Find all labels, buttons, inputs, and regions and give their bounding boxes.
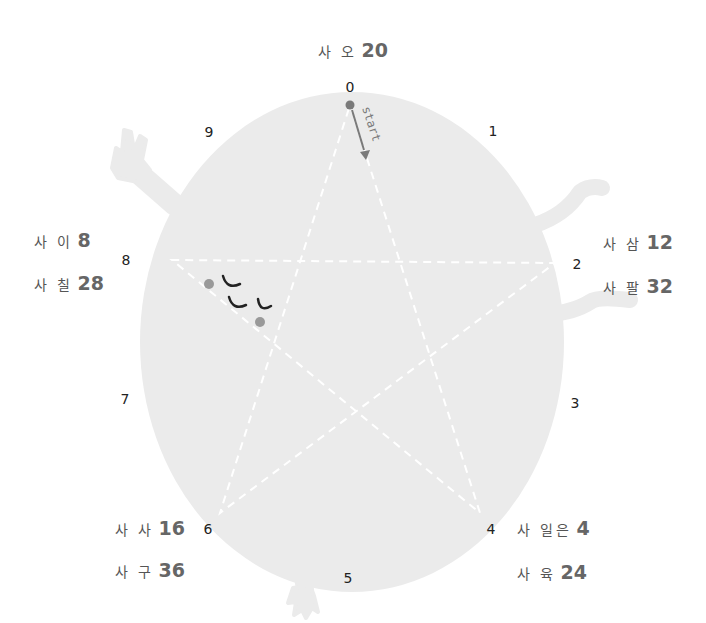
vertex-number-0: 0	[346, 79, 355, 95]
vertex-number-1: 1	[489, 123, 498, 139]
label-value: 36	[158, 559, 184, 581]
vertex-number-8: 8	[122, 252, 131, 268]
label-korean: 사 사	[115, 522, 154, 538]
label-value: 20	[361, 39, 387, 61]
label-value: 28	[77, 272, 103, 294]
start-dot	[346, 101, 355, 110]
cheek-dot-right	[255, 317, 265, 327]
label-top: 사 오20	[318, 39, 388, 61]
label-value: 4	[576, 517, 589, 539]
label-value: 8	[77, 229, 90, 251]
label-bottom-right-2: 사 육24	[517, 561, 587, 583]
label-value: 24	[560, 561, 586, 583]
vertex-number-6: 6	[204, 521, 213, 537]
label-value: 32	[646, 275, 672, 297]
vertex-number-9: 9	[205, 124, 214, 140]
label-value: 12	[646, 231, 672, 253]
vertex-number-7: 7	[121, 391, 130, 407]
label-korean: 사 일은	[517, 522, 572, 538]
label-korean: 사 오	[318, 44, 357, 60]
label-bottom-right-1: 사 일은4	[517, 517, 590, 539]
label-value: 16	[158, 517, 184, 539]
label-korean: 사 팔	[603, 280, 642, 296]
label-korean: 사 칠	[34, 277, 73, 293]
vertex-number-5: 5	[344, 570, 353, 586]
blob-body	[140, 92, 564, 592]
label-right-1: 사 삼12	[603, 231, 673, 253]
label-bottom-left-2: 사 구36	[115, 559, 185, 581]
label-korean: 사 구	[115, 564, 154, 580]
label-left-1: 사 이8	[34, 229, 91, 251]
vertex-number-2: 2	[573, 256, 582, 272]
vertex-number-3: 3	[571, 395, 580, 411]
label-korean: 사 이	[34, 234, 73, 250]
label-korean: 사 삼	[603, 236, 642, 252]
label-left-2: 사 칠28	[34, 272, 104, 294]
label-bottom-left-1: 사 사16	[115, 517, 185, 539]
label-korean: 사 육	[517, 566, 556, 582]
cheek-dot-left	[204, 279, 214, 289]
vertex-number-4: 4	[487, 521, 496, 537]
label-right-2: 사 팔32	[603, 275, 673, 297]
